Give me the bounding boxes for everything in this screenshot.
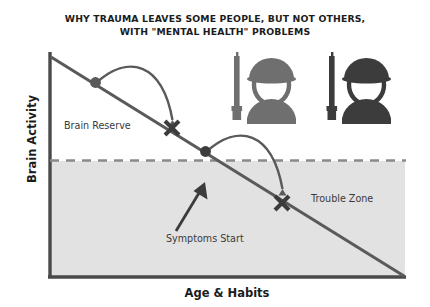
trauma-event-2-start-dot bbox=[200, 146, 211, 157]
y-axis-label: Brain Activity bbox=[25, 79, 39, 199]
plot-area bbox=[0, 0, 430, 307]
annotation-brain-reserve: Brain Reserve bbox=[64, 120, 131, 131]
soldier-icon-right bbox=[327, 52, 392, 124]
rifle-icon-left bbox=[232, 52, 243, 120]
x-axis-label: Age & Habits bbox=[48, 286, 406, 300]
trauma-event-1-start-dot bbox=[90, 77, 101, 88]
soldier-icon-left bbox=[232, 52, 297, 124]
annotation-symptoms-start: Symptoms Start bbox=[166, 233, 244, 244]
infographic-chart: WHY TRAUMA LEAVES SOME PEOPLE, BUT NOT O… bbox=[0, 0, 430, 307]
rifle-icon-right bbox=[327, 52, 338, 120]
trouble-zone-region bbox=[51, 161, 405, 277]
annotation-trouble-zone: Trouble Zone bbox=[311, 193, 373, 204]
